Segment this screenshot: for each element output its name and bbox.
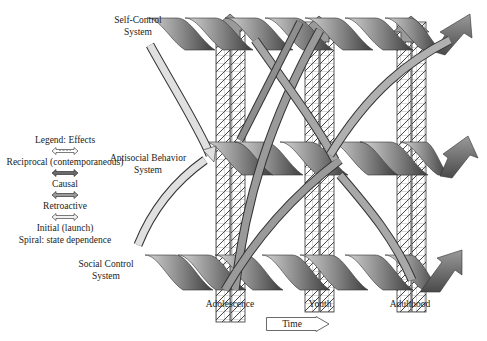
dark-arrow-icon (0, 168, 130, 178)
label-line: System (76, 270, 136, 282)
legend-item-initial: Initial (launch) (0, 222, 130, 234)
label-line: System (108, 26, 168, 38)
legend-item-causal: Causal (0, 178, 130, 190)
legend: Legend: Effects Reciprocal (contemporane… (0, 134, 130, 246)
striped-arrow-icon (0, 146, 130, 156)
medium-arrow-icon (0, 190, 130, 200)
legend-item-reciprocal: Reciprocal (contemporaneous) (0, 156, 130, 168)
time-arrow: Time (266, 316, 330, 332)
label-line: Social Control (76, 258, 136, 270)
stage-label-adolescence: Adolescence (195, 298, 265, 310)
system-label-self-control: Self-Control System (108, 14, 168, 38)
legend-spiral-note: Spiral: state dependence (0, 234, 130, 246)
label-line: Self-Control (108, 14, 168, 26)
legend-title: Legend: Effects (0, 134, 130, 146)
stage-label-youth: Youth (300, 298, 340, 310)
legend-item-retroactive: Retroactive (0, 200, 130, 212)
time-label: Time (266, 318, 318, 330)
system-label-social-control: Social Control System (76, 258, 136, 282)
light-arrow-icon (0, 212, 130, 222)
stage-label-adulthood: Adulthood (380, 298, 440, 310)
